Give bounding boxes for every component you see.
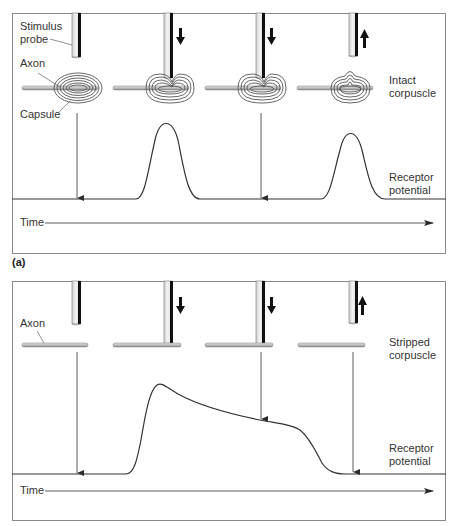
label-intact-corpuscle: Intact corpuscle: [389, 74, 436, 100]
axon-b1: [22, 343, 88, 347]
label-receptor: Receptor: [389, 442, 434, 455]
label-potential: potential: [389, 455, 434, 468]
axon-b3: [205, 343, 273, 347]
stimulus-probe-b1: [72, 281, 81, 325]
label-stripped: Stripped: [389, 336, 436, 349]
arrow-down-icon: [176, 297, 185, 314]
label-receptor: Receptor: [389, 171, 434, 184]
label-axon-a: Axon: [20, 57, 45, 70]
panel-a: [12, 13, 446, 223]
arrow-up-icon: [360, 29, 369, 48]
stimulus-probe-b3: [256, 281, 265, 344]
arrow-down-icon: [176, 28, 185, 45]
label-stimulus-probe: Stimulus probe: [20, 20, 62, 46]
label-corpuscle: corpuscle: [389, 349, 436, 362]
axon-4: [297, 86, 373, 90]
stimulus-probe-4: [349, 13, 358, 57]
axon-b4: [298, 343, 365, 347]
label-stripped-corpuscle: Stripped corpuscle: [389, 336, 436, 362]
label-intact: Intact: [389, 74, 436, 87]
stimulus-probe-3: [256, 13, 265, 78]
label-receptor-potential-a: Receptor potential: [389, 171, 434, 197]
stimulus-probe-1: [72, 13, 81, 58]
label-receptor-potential-b: Receptor potential: [389, 442, 434, 468]
leader-line-axon: [38, 73, 60, 87]
label-corpuscle: corpuscle: [389, 87, 436, 100]
stimulus-probe-b2: [164, 281, 173, 344]
arrow-up-icon: [358, 296, 367, 315]
label-stimulus: Stimulus: [20, 20, 62, 33]
arrow-down-icon: [267, 28, 276, 45]
label-axon-b: Axon: [20, 317, 45, 330]
label-time-a: Time: [20, 216, 44, 229]
panel-tag-a: (a): [12, 256, 25, 268]
label-probe: probe: [20, 33, 62, 46]
panel-b: [12, 281, 446, 491]
label-time-b: Time: [20, 484, 44, 497]
label-capsule: Capsule: [20, 108, 60, 121]
leader-line-axon-b: [37, 331, 44, 343]
stimulus-probe-b4: [349, 281, 358, 324]
arrow-down-icon: [267, 297, 276, 314]
label-potential: potential: [389, 184, 434, 197]
axon-b2: [113, 343, 181, 347]
stimulus-probe-2: [164, 13, 173, 78]
pacinian-corpuscle-diagram: [0, 0, 456, 526]
